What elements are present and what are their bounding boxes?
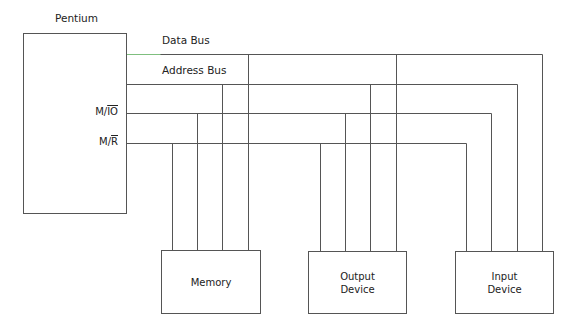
output-device-box: Output Device bbox=[308, 251, 407, 314]
input-device-label: Input Device bbox=[456, 270, 553, 296]
signal-m-io-label: M/IO bbox=[95, 106, 118, 117]
cpu-title: Pentium bbox=[55, 12, 98, 24]
input-device-box: Input Device bbox=[455, 251, 554, 314]
cpu-box bbox=[23, 33, 127, 214]
memory-box: Memory bbox=[161, 250, 261, 314]
data-bus-label: Data Bus bbox=[162, 34, 210, 46]
signal-m-r-label: M/R bbox=[99, 136, 118, 147]
address-bus-label: Address Bus bbox=[162, 64, 226, 76]
signal-m-r-overline: R bbox=[111, 136, 118, 147]
signal-m-r-prefix: M/ bbox=[99, 136, 111, 147]
output-device-label: Output Device bbox=[309, 270, 406, 296]
memory-label: Memory bbox=[162, 276, 260, 289]
signal-m-io-overline: IO bbox=[107, 106, 118, 117]
signal-m-io-prefix: M/ bbox=[95, 106, 107, 117]
